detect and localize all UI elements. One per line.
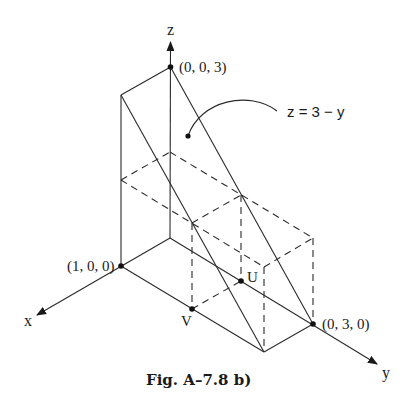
label-V: V xyxy=(181,313,192,329)
plane-marker-dot xyxy=(185,133,190,138)
x-axis xyxy=(37,238,170,315)
z-axis-label: z xyxy=(167,21,174,38)
wedge-solid-edges xyxy=(121,67,313,352)
point-x-unit xyxy=(118,263,124,269)
x-axis-label: x xyxy=(24,312,32,329)
y-axis xyxy=(170,238,377,364)
point-y-intercept xyxy=(310,321,316,327)
label-y-intercept: (0, 3, 0) xyxy=(322,316,370,333)
label-x-point: (1, 0, 0) xyxy=(67,258,115,275)
point-z-intercept xyxy=(168,64,174,70)
plane-label-leader xyxy=(188,100,277,136)
z-axis xyxy=(170,42,171,238)
dashed-box xyxy=(121,152,313,352)
plane-equation-label: z = 3 − y xyxy=(287,103,345,120)
diagram-canvas: z x y (0, 0, 3) (1, 0, 0) (0, 3, 0) U V … xyxy=(0,0,408,411)
figure-caption: Fig. A–7.8 b) xyxy=(146,371,251,389)
y-axis-label: y xyxy=(382,364,390,382)
label-z-intercept: (0, 0, 3) xyxy=(179,59,227,76)
point-V xyxy=(189,306,195,312)
point-U xyxy=(238,278,244,284)
label-U: U xyxy=(247,269,258,285)
